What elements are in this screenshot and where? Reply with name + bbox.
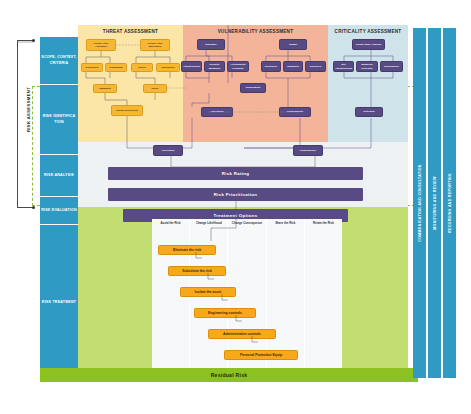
node-consequence-v[interactable]: Consequence	[279, 107, 311, 117]
node-capability[interactable]: Capability	[93, 84, 117, 93]
step-personal-protective-equip[interactable]: Personal Protective Equip	[224, 350, 298, 360]
step-administrative-controls[interactable]: Administrative controls	[208, 329, 276, 339]
node-accessibility-proximity[interactable]: Accessibility Proximity	[227, 61, 249, 72]
node-attractiveness[interactable]: Attractiveness	[181, 61, 202, 72]
node-criticality[interactable]: Criticality	[355, 107, 383, 117]
node-threat-prioritised[interactable]: Threat (prioritised)	[111, 105, 143, 116]
side-bar-communication-label: COMMUNICATION AND CONSULTATION	[418, 164, 422, 241]
node-threat-value-analysis[interactable]: Threat Value Analysis	[352, 39, 385, 50]
node-knowledge[interactable]: Knowledge	[105, 63, 127, 72]
node-vulnerability[interactable]: Vulnerability	[240, 83, 266, 93]
criticality-assessment-panel: CRITICALITY ASSESSMENT Threat Value Anal…	[328, 25, 408, 142]
treatment-panel: Avoid the Risk Change Likelihood Change …	[152, 219, 342, 369]
node-consequence[interactable]: Consequence	[293, 145, 323, 156]
treatment-band: Treatment Options Avoid the Risk Change …	[78, 207, 408, 382]
risk-assessment-label: RISK ASSESSMENT	[26, 40, 31, 180]
sidebar-item-identification[interactable]: RISK IDENTIFICA TION	[40, 85, 78, 155]
side-bar-monitoring-label: MONITORING AND REVIEW	[433, 176, 437, 229]
side-bar-recording-label: RECORDING AND REPORTING	[448, 173, 452, 233]
node-resources[interactable]: Resources	[81, 63, 103, 72]
step-eliminate-the-risk[interactable]: Eliminate the risk	[158, 245, 216, 255]
residual-risk-bar: Residual Risk	[40, 368, 418, 382]
node-recovery[interactable]: Recovery	[305, 61, 326, 72]
risk-assessment-bracket: RISK ASSESSMENT	[17, 40, 33, 208]
bar-risk-rating[interactable]: Risk Rating	[108, 167, 363, 180]
node-site-attractiveness[interactable]: Site Attractiveness	[333, 61, 354, 72]
treatment-column-share[interactable]: Share the Risk	[267, 219, 305, 369]
treatment-header-change-consequence: Change Consequence	[228, 222, 265, 226]
diagram-root: RISK ASSESSMENT SCOPE, CONTEXT, CRITERIA…	[0, 0, 471, 414]
node-threat-actor-attributes[interactable]: Threat Actor Attributes	[86, 39, 116, 51]
sidebar-item-evaluation[interactable]: RISK EVALUATION	[40, 197, 78, 225]
vulnerability-assessment-title: VULNERABILITY ASSESSMENT	[183, 29, 328, 34]
node-desire[interactable]: Desire	[131, 63, 153, 72]
vulnerability-assessment-panel: VULNERABILITY ASSESSMENT Exposure Attrac…	[183, 25, 328, 142]
step-engineering-controls[interactable]: Engineering controls	[194, 308, 256, 318]
sidebar-item-treatment[interactable]: RISK TREATMENT	[40, 225, 78, 382]
node-exposure[interactable]: Exposure	[197, 39, 225, 50]
step-substitute-the-risk[interactable]: Substitute the risk	[168, 266, 226, 276]
node-likelihood-v[interactable]: Likelihood	[201, 107, 233, 117]
sidebar-item-analysis[interactable]: RISK ANALYSIS	[40, 155, 78, 197]
analysis-band: Likelihood Consequence Risk Rating Risk …	[78, 142, 408, 207]
threat-assessment-panel: THREAT ASSESSMENT Threat Actor Attribute…	[78, 25, 183, 142]
node-confidence[interactable]: Confidence	[156, 63, 180, 72]
bracket-dot-bottom	[32, 206, 35, 209]
node-intent[interactable]: Intent	[143, 84, 167, 93]
side-bar-recording[interactable]: RECORDING AND REPORTING	[443, 28, 456, 378]
side-bar-communication[interactable]: COMMUNICATION AND CONSULTATION	[413, 28, 426, 378]
phase-sidebar: SCOPE, CONTEXT, CRITERIA RISK IDENTIFICA…	[40, 37, 78, 382]
criticality-assessment-title: CRITICALITY ASSESSMENT	[328, 29, 408, 34]
sidebar-item-scope[interactable]: SCOPE, CONTEXT, CRITERIA	[40, 37, 78, 85]
node-threat-actor-motivation[interactable]: Threat Actor Motivation	[140, 39, 170, 51]
treatment-header-avoid: Avoid the Risk	[152, 222, 189, 226]
node-business-criticality[interactable]: Business Criticality	[356, 61, 378, 72]
node-dependency[interactable]: Dependency	[380, 61, 403, 72]
node-security-measures[interactable]: Security Measures	[204, 61, 225, 72]
main-canvas: THREAT ASSESSMENT Threat Actor Attribute…	[78, 25, 408, 382]
treatment-header-retain: Retain the Risk	[305, 222, 342, 226]
treatment-header-change-likelihood: Change Likelihood	[190, 222, 227, 226]
threat-assessment-title: THREAT ASSESSMENT	[78, 29, 183, 34]
node-likelihood[interactable]: Likelihood	[153, 145, 183, 156]
node-capability-v[interactable]: Capability	[283, 61, 303, 72]
bar-risk-prioritisation[interactable]: Risk Prioritisation	[108, 188, 363, 201]
treatment-column-retain[interactable]: Retain the Risk	[305, 219, 342, 369]
side-bar-monitoring[interactable]: MONITORING AND REVIEW	[428, 28, 441, 378]
bracket-dot-top	[32, 39, 35, 42]
assessment-band: THREAT ASSESSMENT Threat Actor Attribute…	[78, 25, 408, 142]
node-impact[interactable]: Impact	[279, 39, 307, 50]
treatment-header-share: Share the Risk	[267, 222, 304, 226]
step-isolate-the-asset[interactable]: Isolate the asset	[180, 287, 236, 297]
node-resilience[interactable]: Resilience	[261, 61, 281, 72]
